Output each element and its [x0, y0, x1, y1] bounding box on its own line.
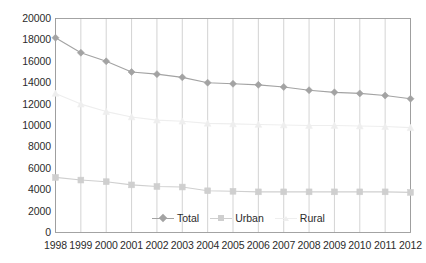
legend-item-total: Total	[152, 213, 199, 224]
x-tick-label: 2011	[371, 240, 399, 251]
x-tick-label: 2007	[270, 240, 298, 251]
chart-legend: TotalUrbanRural	[152, 213, 325, 224]
legend-swatch-triangle-icon	[275, 214, 297, 223]
x-tick-label: 1999	[67, 240, 95, 251]
x-tick-label: 2001	[118, 240, 146, 251]
x-tick-label: 2003	[168, 240, 196, 251]
x-tick-label: 2000	[92, 240, 120, 251]
legend-item-rural: Rural	[275, 213, 325, 224]
legend-item-urban: Urban	[210, 213, 264, 224]
x-tick-label: 1998	[42, 240, 70, 251]
legend-swatch-diamond-icon	[152, 214, 174, 223]
x-tick-label: 2004	[194, 240, 222, 251]
chart-screenshot: 2000018000160001400012000100008000600040…	[0, 0, 426, 263]
x-tick-label: 2010	[346, 240, 374, 251]
x-tick-label: 2008	[295, 240, 323, 251]
x-tick-label: 2005	[219, 240, 247, 251]
x-tick-label: 2012	[397, 240, 425, 251]
line-chart: 2000018000160001400012000100008000600040…	[0, 0, 426, 263]
legend-label: Urban	[235, 213, 264, 224]
x-tick-label: 2002	[143, 240, 171, 251]
legend-swatch-square-icon	[210, 214, 232, 223]
legend-label: Total	[177, 213, 199, 224]
x-tick-label: 2006	[244, 240, 272, 251]
legend-label: Rural	[300, 213, 325, 224]
x-tick-label: 2009	[320, 240, 348, 251]
x-axis: 1998199920002001200220032004200520062007…	[0, 0, 426, 263]
